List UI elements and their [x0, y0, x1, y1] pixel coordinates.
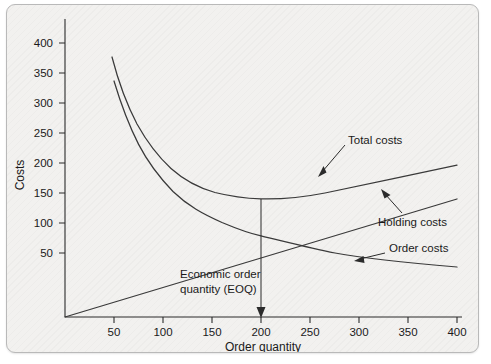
y-tick-marks	[59, 43, 65, 253]
series-total-costs	[112, 57, 457, 199]
y-tick-label-300: 300	[34, 97, 53, 109]
y-axis-title: Costs	[13, 160, 27, 191]
x-tick-label-300: 300	[349, 326, 368, 338]
axes-group	[65, 19, 462, 317]
x-tick-label-250: 250	[300, 326, 319, 338]
eoq-label-line2: quantity (EOQ)	[180, 283, 257, 295]
y-tick-label-200: 200	[34, 157, 53, 169]
x-tick-label-150: 150	[202, 326, 221, 338]
total-costs-label: Total costs	[348, 134, 403, 146]
x-tick-labels: 50 100 150 200 250 300 350 400	[108, 326, 467, 338]
y-tick-label-150: 150	[34, 187, 53, 199]
y-tick-label-350: 350	[34, 67, 53, 79]
x-tick-label-350: 350	[398, 326, 417, 338]
order-costs-label: Order costs	[389, 242, 449, 254]
x-tick-label-50: 50	[108, 326, 121, 338]
holding-costs-label: Holding costs	[378, 216, 447, 228]
eoq-label-line1: Economic order	[180, 268, 261, 280]
y-tick-label-100: 100	[34, 217, 53, 229]
figure-frame: 400 350 300 250 200 150 100 50 50 100 15…	[6, 4, 479, 353]
x-axis-title: Order quantity	[225, 340, 301, 353]
y-tick-label-250: 250	[34, 127, 53, 139]
y-tick-label-50: 50	[40, 247, 53, 259]
x-tick-label-400: 400	[447, 326, 466, 338]
annotation-total-costs: Total costs	[318, 134, 403, 177]
x-tick-label-200: 200	[251, 326, 270, 338]
annotation-holding-costs: Holding costs	[378, 189, 447, 228]
x-tick-marks	[114, 317, 457, 323]
series-order-costs	[114, 81, 457, 267]
total-costs-leader-line	[322, 145, 345, 172]
eoq-arrowhead-icon	[257, 307, 266, 318]
x-tick-label-100: 100	[153, 326, 172, 338]
y-tick-label-400: 400	[34, 37, 53, 49]
holding-costs-arrowhead-icon	[381, 189, 391, 199]
y-tick-labels: 400 350 300 250 200 150 100 50	[34, 37, 53, 259]
holding-costs-leader-line	[385, 194, 402, 213]
eoq-chart-svg: 400 350 300 250 200 150 100 50 50 100 15…	[7, 5, 479, 353]
annotation-order-costs: Order costs	[354, 242, 449, 263]
annotation-eoq: Economic order quantity (EOQ)	[180, 268, 261, 295]
